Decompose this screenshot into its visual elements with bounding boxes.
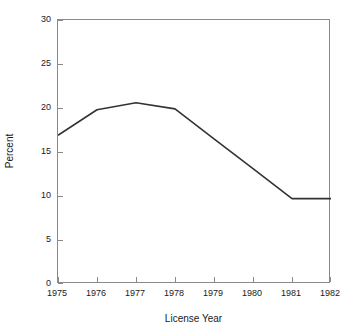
chart-figure: 30 25 20 15 10 5 0 Percent 1975 [0, 0, 357, 336]
series-line-percent [58, 103, 331, 199]
x-tick-label-1982: 1982 [310, 288, 350, 299]
x-axis-tick-labels: 1975 1976 1977 1978 1979 1980 1981 1982 [0, 288, 357, 302]
x-tick-label-1977: 1977 [115, 288, 155, 299]
y-tick-label-25: 25 [41, 58, 51, 68]
x-tick-label-1976: 1976 [76, 288, 116, 299]
y-tick-label-0: 0 [46, 278, 51, 288]
y-tick-label-10: 10 [41, 190, 51, 200]
x-tick-label-1980: 1980 [232, 288, 272, 299]
x-tick-label-1975: 1975 [37, 288, 77, 299]
y-tick-label-15: 15 [41, 146, 51, 156]
y-tick-label-5: 5 [46, 234, 51, 244]
x-tick-label-1979: 1979 [193, 288, 233, 299]
y-tick-label-30: 30 [41, 14, 51, 24]
x-tick-label-1981: 1981 [271, 288, 311, 299]
y-tick-label-20: 20 [41, 102, 51, 112]
x-axis-title: License Year [57, 313, 330, 325]
plot-area [57, 19, 330, 283]
data-line-svg [58, 20, 331, 284]
x-tick-label-1978: 1978 [154, 288, 194, 299]
y-axis-title: Percent [0, 19, 20, 283]
